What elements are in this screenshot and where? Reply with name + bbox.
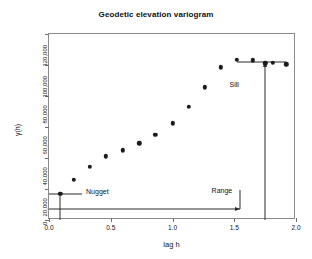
y-axis-tick (45, 189, 49, 190)
sill-vertical-line (265, 62, 266, 220)
y-axis-tick-label: 60,000 (42, 136, 48, 154)
plot-area: 020,00040,00060,00080,000100,000120,0000… (48, 33, 295, 219)
y-axis-tick-label: 100,000 (42, 76, 48, 98)
x-axis-title: lag h (48, 240, 295, 249)
x-axis-tick-label: 0.0 (44, 224, 53, 231)
x-axis-tick-label: 1.5 (230, 224, 239, 231)
plot-inner: 020,00040,00060,00080,000100,000120,0000… (49, 34, 294, 218)
nugget-vertical-line (60, 194, 61, 220)
chart-root: Geodetic elevation variogram γ(h) lag h … (0, 0, 312, 259)
data-point (284, 62, 288, 66)
data-point (153, 133, 157, 137)
chart-title: Geodetic elevation variogram (0, 10, 312, 19)
range-vertical-tick (240, 190, 241, 209)
range-annotation-label: Range (212, 186, 233, 193)
x-axis-tick (49, 218, 50, 222)
data-point (202, 85, 206, 89)
data-point (121, 148, 125, 152)
y-axis-tick-label: 120,000 (42, 45, 48, 67)
y-axis-title: γ(h) (14, 123, 21, 135)
data-point (270, 60, 274, 64)
sill-annotation-label: Sill (230, 80, 239, 87)
nugget-annotation-label: Nugget (86, 188, 109, 195)
data-point (104, 154, 108, 158)
x-axis-tick (234, 218, 235, 222)
data-point (170, 121, 174, 125)
data-point (218, 65, 222, 69)
data-point (186, 105, 190, 109)
nugget-level-line (49, 193, 82, 194)
data-point (137, 141, 141, 145)
y-axis-tick (45, 127, 49, 128)
x-axis-tick (296, 218, 297, 222)
x-axis-tick (111, 218, 112, 222)
y-axis-tick (45, 158, 49, 159)
y-axis-tick-label: 40,000 (42, 167, 48, 185)
range-baseline-line (49, 209, 240, 210)
y-axis-tick (45, 34, 49, 35)
x-axis-tick-label: 0.5 (106, 224, 115, 231)
y-axis-tick-label: 80,000 (42, 105, 48, 123)
sill-level-line (237, 61, 286, 62)
data-point (88, 164, 92, 168)
x-axis-tick (173, 218, 174, 222)
data-point (58, 191, 62, 195)
x-axis-tick-label: 2.0 (291, 224, 300, 231)
x-axis-tick-label: 1.0 (168, 224, 177, 231)
data-point (71, 177, 75, 181)
y-axis-tick-label: 20,000 (42, 198, 48, 216)
